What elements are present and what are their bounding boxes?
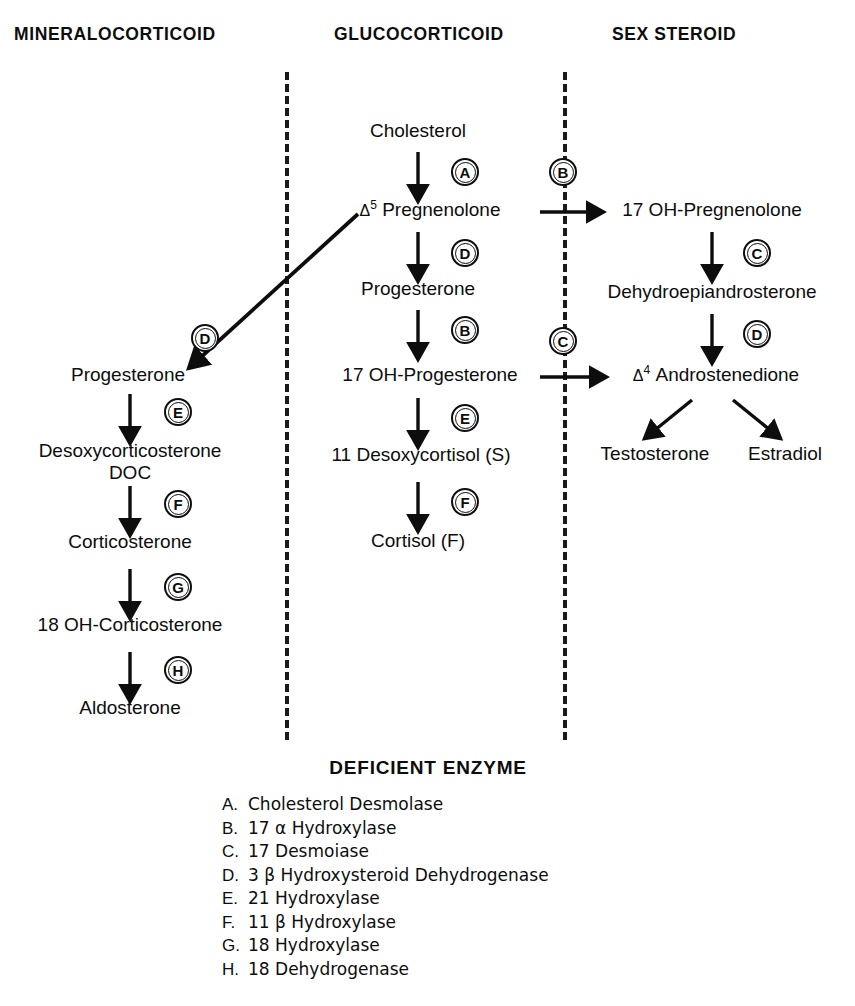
node-estradiol: Estradiol [748,443,822,465]
column-header-sex-steroid: SEX STEROID [612,24,736,45]
legend-item-key: A. [222,793,248,817]
column-header-glucocorticoid: GLUCOCORTICOID [334,24,504,45]
legend-item-key: B. [222,817,248,841]
legend-list: A.Cholesterol Desmolase B.17 α Hydroxyla… [222,793,549,981]
legend-item: H.18 Dehydrogenase [222,958,549,982]
legend-item-key: E. [222,887,248,911]
enzyme-marker-g-18-hydroxylase: G [164,573,192,601]
arrow-pregnenolone-to-progesterone-left [200,214,358,358]
divider-mineralocorticoid-glucocorticoid [285,72,289,740]
node-doc-abbreviation: DOC [109,462,151,483]
node-cortisol: Cortisol (F) [371,530,465,552]
legend-item-key: H. [222,958,248,982]
legend-item-text: 18 Dehydrogenase [248,959,409,979]
node-progesterone-center: Progesterone [361,278,475,300]
enzyme-marker-d-pregnenolone-to-progesterone-left: D [191,324,219,352]
enzyme-marker-e-21-hydroxylase-left: E [164,398,192,426]
legend-item-key: D. [222,864,248,888]
node-18-oh-corticosterone: 18 OH-Corticosterone [38,614,223,636]
enzyme-marker-a-cholesterol-desmolase: A [451,158,479,186]
column-header-mineralocorticoid: MINERALOCORTICOID [14,24,216,45]
legend-item: E.21 Hydroxylase [222,887,549,911]
arrow-androstenedione-to-estradiol [733,400,770,430]
enzyme-marker-f-11-beta-hydroxylase-left: F [164,490,192,518]
legend-item: F.11 β Hydroxylase [222,911,549,935]
legend-item-text: 18 Hydroxylase [248,935,380,955]
legend-item: A.Cholesterol Desmolase [222,793,549,817]
node-17-oh-progesterone: 17 OH-Progesterone [342,364,517,386]
enzyme-marker-b-progesterone-to-17oh: B [451,316,479,344]
legend-item: G.18 Hydroxylase [222,934,549,958]
steroidogenesis-pathway-diagram: MINERALOCORTICOID GLUCOCORTICOID SEX STE… [0,0,855,1006]
delta-symbol: Δ [633,367,644,384]
node-androstenedione: Δ4 Androstenedione [633,364,799,386]
enzyme-marker-e-21-hydroxylase-center: E [451,404,479,432]
enzyme-marker-c-17oh-pregnenolone-to-dhea: C [743,239,771,267]
legend-item: B.17 α Hydroxylase [222,817,549,841]
enzyme-marker-f-11-beta-hydroxylase-center: F [451,488,479,516]
node-pregnenolone: Δ5 Pregnenolone [360,199,501,221]
legend-item-text: 17 α Hydroxylase [248,818,396,838]
node-corticosterone: Corticosterone [68,531,192,553]
legend-item-text: 17 Desmoiase [248,841,369,861]
node-cholesterol: Cholesterol [370,120,466,142]
enzyme-marker-c-17-desmolase-branch: C [549,327,577,355]
delta-symbol: Δ [360,202,371,219]
node-desoxycorticosterone: DesoxycorticosteroneDOC [39,440,222,484]
legend-item-text: Cholesterol Desmolase [248,794,443,814]
legend-item-text: 11 β Hydroxylase [248,912,396,932]
legend-title: DEFICIENT ENZYME [329,757,527,779]
enzyme-marker-b-pregnenolone-branch: B [549,158,577,186]
node-pregnenolone-label: Pregnenolone [377,199,501,220]
node-desoxycorticosterone-label: Desoxycorticosterone [39,440,222,461]
legend-item: C.17 Desmoiase [222,840,549,864]
enzyme-marker-h-18-dehydrogenase: H [164,656,192,684]
legend-item-text: 3 β Hydroxysteroid Dehydrogenase [248,865,549,885]
node-progesterone-left: Progesterone [71,364,185,386]
node-17-oh-pregnenolone: 17 OH-Pregnenolone [622,199,802,221]
enzyme-marker-d-dhea-to-androstenedione: D [743,320,771,348]
legend-item-key: F. [222,911,248,935]
node-testosterone: Testosterone [601,443,710,465]
enzyme-marker-d-pregnenolone-to-progesterone: D [451,239,479,267]
node-11-desoxycortisol: 11 Desoxycortisol (S) [331,444,510,466]
arrow-androstenedione-to-testosterone [655,400,692,430]
legend-item-text: 21 Hydroxylase [248,888,380,908]
legend-item-key: G. [222,934,248,958]
node-aldosterone: Aldosterone [79,697,180,719]
legend-item: D.3 β Hydroxysteroid Dehydrogenase [222,864,549,888]
legend-item-key: C. [222,840,248,864]
node-androstenedione-label: Androstenedione [650,364,799,385]
node-dehydroepiandrosterone: Dehydroepiandrosterone [607,281,816,303]
